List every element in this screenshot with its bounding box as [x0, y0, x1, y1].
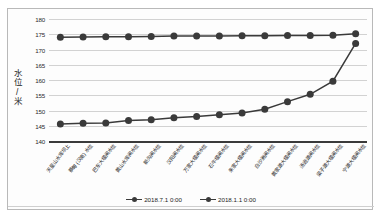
data-point — [307, 32, 314, 39]
x-axis-tick-label: 白沙洲闸水位 — [252, 142, 276, 169]
data-point — [148, 116, 155, 123]
y-axis-tick-label: 160 — [35, 77, 45, 84]
data-point — [352, 30, 359, 37]
y-axis-title: 水位/米 — [10, 45, 24, 129]
data-point — [284, 32, 291, 39]
x-axis-tick-label: 汉阳闸水位 — [164, 142, 185, 166]
x-axis-tick-label: 汤逊湖闸水位 — [297, 142, 321, 169]
legend-label: 2018.7.1 0:00 — [144, 196, 182, 203]
chart-legend: 2018.7.1 0:002018.1.1 0:00 — [8, 196, 374, 203]
legend-label: 2018.1.1 0:00 — [218, 196, 256, 203]
data-point — [261, 106, 268, 113]
x-axis-tick-label: 朱家大堰闸水位 — [226, 142, 253, 173]
legend-item[interactable]: 2018.7.1 0:00 — [126, 196, 182, 203]
data-point — [57, 34, 64, 41]
data-point — [193, 113, 200, 120]
data-point — [57, 120, 64, 127]
data-point — [329, 78, 336, 85]
y-axis-tick-label: 175 — [35, 31, 45, 38]
y-axis-tick-label: 155 — [35, 92, 45, 99]
y-axis-tick-label: 140 — [35, 138, 45, 145]
data-point — [239, 32, 246, 39]
legend-separator — [8, 206, 374, 207]
data-point — [329, 32, 336, 39]
legend-item[interactable]: 2018.1.1 0:00 — [200, 196, 256, 203]
data-point — [170, 114, 177, 121]
data-point — [193, 33, 200, 40]
chart-container: 水位/米 140145150155160165170175180 天星山水库坝上… — [7, 8, 373, 210]
data-point — [239, 109, 246, 116]
data-point — [102, 33, 109, 40]
data-point — [102, 120, 109, 127]
data-point — [125, 117, 132, 124]
data-point — [80, 34, 87, 41]
x-axis-tick-label: 黄山水库闸水位 — [112, 142, 139, 173]
data-point — [125, 33, 132, 40]
y-axis-tick-label: 180 — [35, 16, 45, 23]
x-axis-labels: 天星山水库坝上蔡甸 (汉南) 水位巴东大堰闸水位黄山水库闸水位新沟闸水位汉阳闸水… — [49, 142, 367, 194]
y-axis-tick-label: 150 — [35, 107, 45, 114]
y-axis-tick-label: 170 — [35, 46, 45, 53]
series-line — [60, 43, 355, 124]
data-point — [216, 111, 223, 118]
data-point — [80, 120, 87, 127]
x-axis-tick-label: 万家大堰闸水位 — [181, 142, 208, 173]
x-axis-tick-label: 石牛堰闸水位 — [206, 142, 230, 169]
data-point — [352, 40, 359, 47]
data-point — [261, 32, 268, 39]
data-point — [148, 33, 155, 40]
x-axis-tick-label: 新沟闸水位 — [141, 142, 162, 166]
y-axis-tick-label: 165 — [35, 61, 45, 68]
chart-plot-wrapper: 水位/米 140145150155160165170175180 天星山水库坝上… — [8, 9, 374, 211]
legend-marker-icon — [126, 196, 142, 203]
data-point — [284, 98, 291, 105]
plot-area: 140145150155160165170175180 — [49, 19, 367, 141]
data-point — [170, 33, 177, 40]
legend-marker-icon — [200, 196, 216, 203]
x-axis-tick-label: 宁湖大堰闸水位 — [340, 142, 367, 173]
data-point — [307, 91, 314, 98]
y-axis-tick-label: 145 — [35, 122, 45, 129]
series-group — [49, 19, 367, 141]
data-point — [216, 33, 223, 40]
